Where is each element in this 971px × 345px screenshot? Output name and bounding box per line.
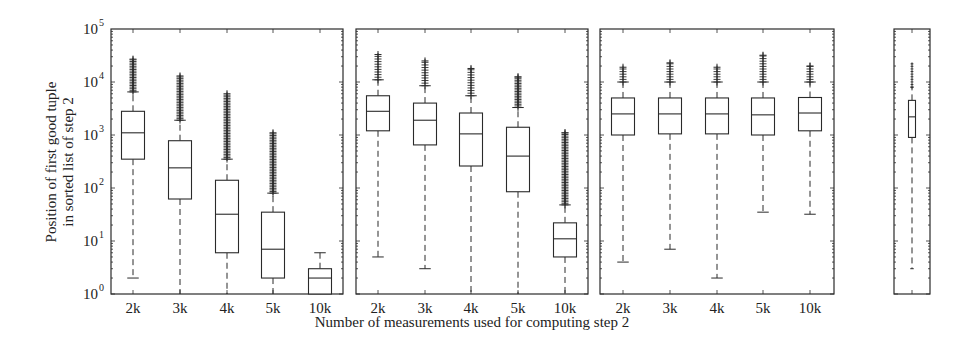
y-tick-label: 10 xyxy=(83,180,98,196)
box-5k: 5k xyxy=(262,29,285,316)
box-3k: 3k xyxy=(169,29,192,316)
box-5k: 5k xyxy=(752,29,775,316)
box-4k: 4k xyxy=(216,29,239,316)
y-tick-label: 10 xyxy=(83,74,98,90)
box-4k: 4k xyxy=(460,29,483,316)
y-axis-label-line-2: in sorted list of step 2 xyxy=(60,97,76,227)
x-tick-label: 3k xyxy=(173,300,189,316)
outlier-markers xyxy=(177,72,184,123)
panel-1: 2k3k4k5k10k xyxy=(111,29,343,316)
outlier-markers xyxy=(375,51,382,83)
y-tick-label: 10 xyxy=(83,21,98,37)
outlier-markers xyxy=(422,57,429,89)
y-tick-label: 10 xyxy=(83,233,98,249)
box-2k: 2k xyxy=(122,29,145,316)
outlier-markers xyxy=(911,62,914,88)
box-3k: 3k xyxy=(414,29,437,316)
outlier-markers xyxy=(714,64,721,86)
box-2k: 2k xyxy=(612,29,635,316)
outlier-markers xyxy=(130,56,137,96)
outlier-markers xyxy=(620,64,627,86)
panel-4 xyxy=(894,29,930,294)
y-tick-exponent: 0 xyxy=(99,282,104,293)
outlier-markers xyxy=(224,90,231,162)
box-2k: 2k xyxy=(367,29,390,316)
outlier-markers xyxy=(515,73,522,111)
y-tick-exponent: 3 xyxy=(99,123,104,134)
y-tick-exponent: 2 xyxy=(99,176,104,187)
x-tick-label: 10k xyxy=(799,300,822,316)
y-tick-exponent: 5 xyxy=(99,17,104,28)
outlier-markers xyxy=(270,129,277,196)
box-10k: 10k xyxy=(799,29,822,316)
box-3k: 3k xyxy=(659,29,682,316)
y-axis-label-line-1: Position of first good tuple xyxy=(43,81,59,242)
box-10k: 10k xyxy=(309,29,332,316)
outlier-markers xyxy=(562,129,569,208)
panel-2: 2k3k4k5k10k xyxy=(356,29,588,316)
x-tick-label: 4k xyxy=(220,300,236,316)
panels-group: 2k3k4k5k10k2k3k4k5k10k2k3k4k5k10k xyxy=(111,29,930,316)
x-tick-label: 4k xyxy=(710,300,726,316)
panel-3: 2k3k4k5k10k xyxy=(600,29,834,316)
y-tick-exponent: 4 xyxy=(99,70,104,81)
x-tick-label: 3k xyxy=(663,300,679,316)
x-tick-label: 2k xyxy=(126,300,142,316)
boxplot-figure: 2k3k4k5k10k2k3k4k5k10k2k3k4k5k10k 100101… xyxy=(0,0,971,345)
y-tick-label: 10 xyxy=(83,286,98,302)
box-10k: 10k xyxy=(554,29,577,316)
box-4k: 4k xyxy=(706,29,729,316)
outlier-markers xyxy=(760,52,767,86)
x-tick-label: 5k xyxy=(756,300,772,316)
x-axis-label: Number of measurements used for computin… xyxy=(315,314,630,330)
box-5k: 5k xyxy=(507,29,530,316)
y-tick-label: 10 xyxy=(83,127,98,143)
box-all xyxy=(909,29,916,294)
y-tick-exponent: 1 xyxy=(99,229,104,240)
outlier-markers xyxy=(468,65,475,99)
outlier-markers xyxy=(667,59,674,85)
outlier-markers xyxy=(807,63,814,86)
x-tick-label: 5k xyxy=(266,300,282,316)
y-axis-tick-labels: 100101102103104105 xyxy=(83,17,104,302)
